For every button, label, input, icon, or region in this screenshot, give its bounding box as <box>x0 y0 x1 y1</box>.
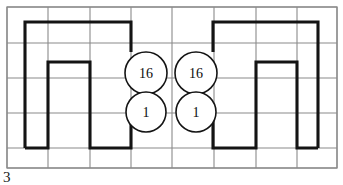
node-top-left-label: 16 <box>139 66 153 81</box>
figure-caption-number: 3 <box>3 170 11 185</box>
grid-vertical-lines <box>7 7 337 168</box>
left-path-lower <box>25 62 131 148</box>
right-path-lower <box>213 62 318 148</box>
node-top-right-label: 16 <box>189 66 203 81</box>
node-bottom-right: 1 <box>176 92 216 132</box>
node-top-right: 16 <box>175 52 217 94</box>
node-bottom-right-label: 1 <box>193 105 200 120</box>
figure-container: 16 16 1 1 3 <box>0 0 343 185</box>
node-bottom-left: 1 <box>126 92 166 132</box>
right-path-group <box>213 22 318 148</box>
node-top-left: 16 <box>125 52 167 94</box>
node-bottom-left-label: 1 <box>143 105 150 120</box>
left-path-upper <box>25 22 131 148</box>
left-path-group <box>25 22 131 148</box>
grid-diagram: 16 16 1 1 <box>0 0 343 185</box>
right-path-upper <box>213 22 318 148</box>
